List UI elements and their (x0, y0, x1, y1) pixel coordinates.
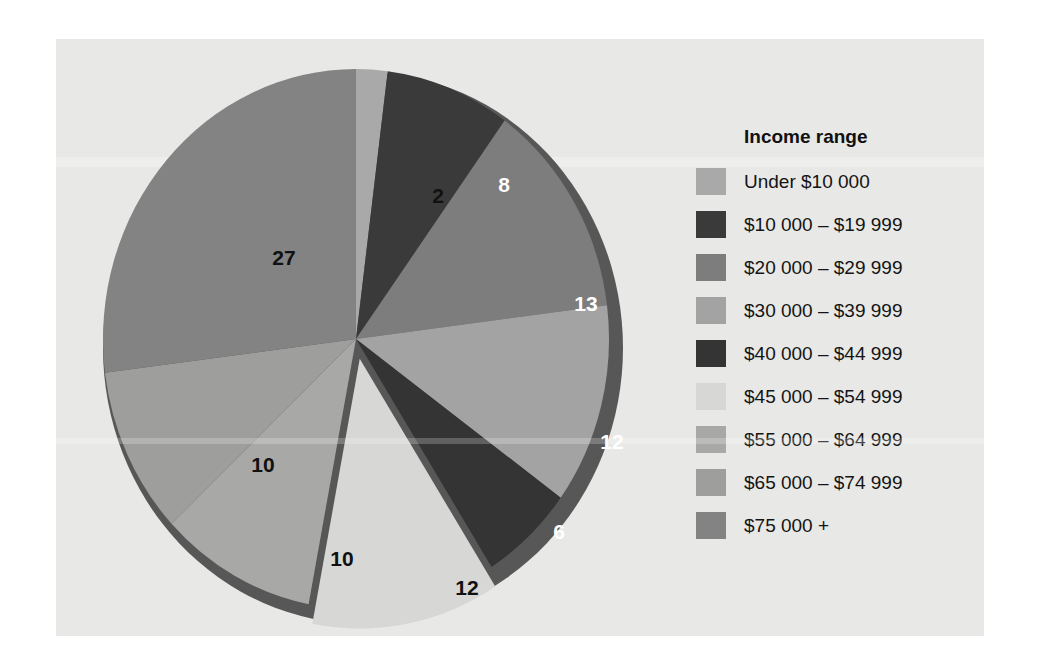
slice-value-label: 8 (498, 174, 510, 195)
pie-chart: 281312612101027 (56, 39, 676, 636)
slice-value-label: 13 (574, 293, 597, 314)
legend-swatch-icon (696, 340, 726, 367)
legend-item[interactable]: $20 000 – $29 999 (696, 246, 976, 289)
pie-chart-svg (56, 39, 676, 636)
legend-item-label: $10 000 – $19 999 (744, 215, 903, 234)
legend-swatch-icon (696, 383, 726, 410)
legend-title: Income range (744, 127, 976, 146)
slice-value-label: 10 (251, 454, 274, 475)
pie-slice[interactable] (103, 69, 356, 373)
slice-value-label: 27 (272, 247, 295, 268)
legend-item-label: $30 000 – $39 999 (744, 301, 903, 320)
legend-item[interactable]: $30 000 – $39 999 (696, 289, 976, 332)
legend-swatch-icon (696, 168, 726, 195)
legend-item-label: $45 000 – $54 999 (744, 387, 903, 406)
legend-swatch-icon (696, 512, 726, 539)
legend-swatch-icon (696, 469, 726, 496)
legend-swatch-icon (696, 211, 726, 238)
legend-item[interactable]: $40 000 – $44 999 (696, 332, 976, 375)
slice-value-label: 10 (330, 548, 353, 569)
legend-item-label: $20 000 – $29 999 (744, 258, 903, 277)
legend-item[interactable]: Under $10 000 (696, 160, 976, 203)
legend-item[interactable]: $55 000 – $64 999 (696, 418, 976, 461)
legend-item[interactable]: $10 000 – $19 999 (696, 203, 976, 246)
legend-swatch-icon (696, 426, 726, 453)
legend-swatch-icon (696, 254, 726, 281)
legend-item[interactable]: $75 000 + (696, 504, 976, 547)
legend-item-label: $75 000 + (744, 516, 829, 535)
slice-value-label: 6 (553, 521, 565, 542)
slice-value-label: 12 (600, 431, 623, 452)
figure-panel: 281312612101027 Income range Under $10 0… (56, 39, 984, 636)
slice-value-label: 12 (455, 577, 478, 598)
legend-item[interactable]: $65 000 – $74 999 (696, 461, 976, 504)
legend-item-label: Under $10 000 (744, 172, 870, 191)
legend-items: Under $10 000$10 000 – $19 999$20 000 – … (696, 160, 976, 547)
legend-item-label: $40 000 – $44 999 (744, 344, 903, 363)
legend-swatch-icon (696, 297, 726, 324)
slice-value-label: 2 (432, 185, 444, 206)
legend-item[interactable]: $45 000 – $54 999 (696, 375, 976, 418)
legend-item-label: $65 000 – $74 999 (744, 473, 903, 492)
legend: Income range Under $10 000$10 000 – $19 … (696, 127, 976, 547)
legend-item-label: $55 000 – $64 999 (744, 430, 903, 449)
